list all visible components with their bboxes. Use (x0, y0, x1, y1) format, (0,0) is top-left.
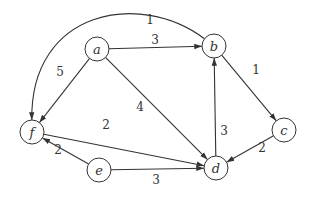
node-e: e (87, 158, 111, 182)
edge-weight-b-f: 1 (146, 13, 154, 27)
node-c: c (272, 118, 296, 142)
node-label-a: a (93, 42, 101, 57)
edge-d-b (214, 58, 216, 156)
node-f: f (20, 120, 44, 144)
edge-b-c (222, 55, 277, 121)
weights-layer: 3541123223 (54, 13, 266, 187)
node-label-b: b (210, 39, 218, 54)
node-a: a (85, 37, 109, 61)
edge-weight-b-c: 1 (252, 63, 260, 77)
edge-c-d (226, 136, 273, 162)
node-b: b (202, 34, 226, 58)
edge-weight-a-d: 4 (136, 100, 144, 114)
node-d: d (204, 156, 228, 180)
edge-weight-a-f: 5 (56, 65, 64, 79)
edge-a-d (105, 57, 207, 159)
node-label-e: e (95, 163, 103, 178)
edge-f-d (44, 134, 204, 165)
edge-weight-d-b: 3 (220, 124, 228, 138)
edge-e-d (111, 168, 204, 170)
node-label-c: c (280, 123, 288, 138)
edge-weight-e-f: 2 (54, 143, 62, 157)
edge-weight-c-d: 2 (258, 141, 266, 155)
nodes-layer: abcdef (20, 34, 296, 182)
edge-weight-e-d: 3 (152, 173, 160, 187)
edge-weight-f-d: 2 (102, 118, 110, 132)
edge-a-f (39, 58, 89, 122)
edge-weight-a-b: 3 (151, 33, 159, 47)
node-label-d: d (212, 161, 220, 176)
weighted-directed-graph: 3541123223 abcdef (0, 0, 312, 197)
